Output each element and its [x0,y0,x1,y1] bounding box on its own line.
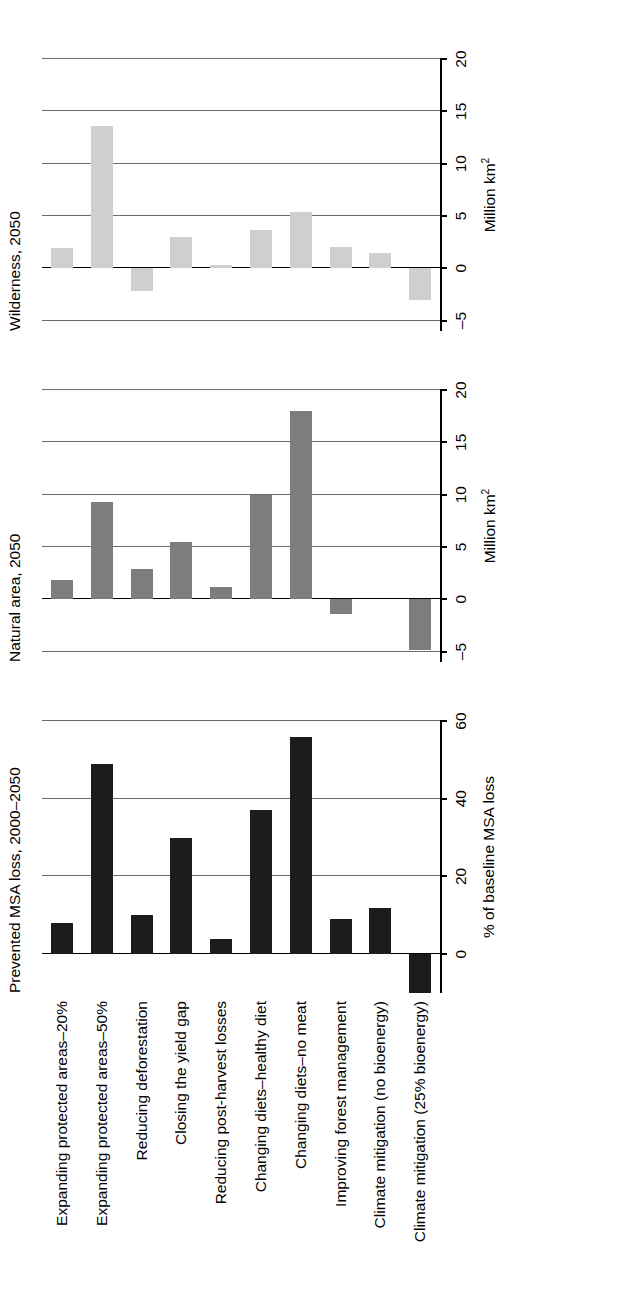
bar [91,502,113,599]
gridline [42,58,440,59]
axis-tick-label: 20 [452,50,470,67]
gridline [42,320,440,321]
rotated-figure-container: Expanding protected areas–20%Expanding p… [0,0,632,1293]
category-label: Expanding protected areas–50% [94,1001,110,1226]
bar [290,411,312,599]
bar [170,237,192,268]
axis-tick-label: 5 [452,212,470,221]
gridline [42,110,440,111]
value-axis-line [440,59,442,331]
bar [250,810,272,954]
bar [290,737,312,955]
axis-tick-label: 0 [452,950,470,959]
bar [409,954,431,993]
axis-tick-label: 10 [452,486,470,503]
category-label: Improving forest management [333,1001,349,1207]
axis-title: % of baseline MSA loss [480,776,498,938]
gridline [42,389,440,390]
axis-tick-label: 60 [452,712,470,729]
gridline [42,441,440,442]
axis-tick-label: 0 [452,264,470,273]
axis-tick-label: –5 [452,312,470,329]
category-label: Reducing post-harvest losses [213,1001,229,1204]
bar [170,838,192,955]
category-label: Reducing deforestation [134,1001,150,1160]
axis-tick-label: 0 [452,595,470,604]
bar [131,569,153,599]
axis-tick-label: 10 [452,155,470,172]
axis-tick-label: 20 [452,868,470,885]
panel-title: Natural area, 2050 [6,534,24,662]
bar [91,764,113,954]
panel-natural-area: Natural area, 2050 Million km2 –50510152… [0,331,632,662]
category-label: Changing diets–healthy diet [253,1001,269,1192]
bar [330,599,352,614]
axis-tick-label: 40 [452,790,470,807]
plot-area [42,390,440,662]
category-label: Changing diets–no meat [293,1001,309,1169]
plot-area [42,721,440,993]
axis-tick-label: 15 [452,103,470,120]
bar [369,908,391,955]
bar [170,542,192,600]
axis-tick-label: 5 [452,543,470,552]
plot-area [42,59,440,331]
bar [330,247,352,268]
value-axis-line [440,721,442,993]
category-label: Closing the yield gap [174,1001,190,1145]
bar-chart-figure: Expanding protected areas–20%Expanding p… [0,0,632,1293]
bar [409,599,431,650]
panel-wilderness: Wilderness, 2050 Million km2 –505101520 [0,0,632,331]
bar [369,253,391,269]
bar [250,495,272,600]
category-label: Climate mitigation (25% bioenergy) [412,1001,428,1242]
axis-title: Million km2 [480,158,499,233]
category-label: Expanding protected areas–20% [54,1001,70,1226]
panel-title: Wilderness, 2050 [6,211,24,331]
bar [210,939,232,955]
category-label: Climate mitigation (no bioenergy) [373,1001,389,1228]
bar [290,212,312,268]
bar [409,268,431,299]
bar [131,268,153,291]
bar [51,923,73,954]
panel-prevented-msa-loss: Prevented MSA loss, 2000–2050 % of basel… [0,662,632,993]
bar [91,126,113,268]
bar [250,230,272,269]
axis-tick-label: 15 [452,434,470,451]
bar [131,915,153,954]
gridline [42,494,440,495]
bar [330,919,352,954]
panel-title: Prevented MSA loss, 2000–2050 [6,767,24,993]
axis-tick-label: –5 [452,643,470,660]
axis-tick-label: 20 [452,381,470,398]
axis-title: Million km2 [480,489,499,564]
gridline [42,720,440,721]
value-axis-line [440,390,442,662]
bar [210,587,232,600]
category-label-column: Expanding protected areas–20%Expanding p… [0,993,632,1293]
bar [51,580,73,599]
bar [51,248,73,268]
bar [210,265,232,268]
gridline [42,651,440,652]
